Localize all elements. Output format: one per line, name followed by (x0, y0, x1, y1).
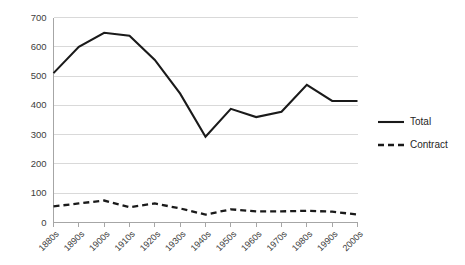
x-axis-tick-label: 1900s (87, 228, 112, 253)
series-line-contract (54, 201, 358, 215)
y-axis-tick-label: 700 (31, 12, 47, 23)
y-axis-tick-label: 0 (41, 217, 46, 228)
y-axis-tick-label: 500 (31, 70, 47, 81)
chart-screenshot: 0100200300400500600700 1880s1890s1900s19… (0, 0, 465, 265)
x-axis-tick-label: 1930s (163, 228, 188, 253)
y-axis-tick-label: 200 (31, 158, 47, 169)
legend-label-total: Total (410, 116, 431, 127)
x-axis-tick-label: 1990s (315, 228, 340, 253)
x-axis-tick-label: 1890s (62, 228, 87, 253)
x-axis-tick-label: 1980s (290, 228, 315, 253)
x-axis-tick-label: 1960s (239, 228, 264, 253)
x-axis-tick-label: 1940s (188, 228, 213, 253)
line-chart: 0100200300400500600700 1880s1890s1900s19… (0, 0, 465, 265)
y-axis-tick-label: 300 (31, 129, 47, 140)
x-axis-tick-label: 1910s (112, 228, 137, 253)
data-series (54, 33, 358, 215)
x-axis-tick-label: 1950s (214, 228, 239, 253)
chart-legend: TotalContract (378, 116, 448, 150)
y-axis-tick-label: 400 (31, 99, 47, 110)
gridlines (54, 18, 358, 194)
x-axis-tick-label: 1970s (264, 228, 289, 253)
y-axis-tick-label: 600 (31, 41, 47, 52)
x-axis-tick-labels: 1880s1890s1900s1910s1920s1930s1940s1950s… (36, 228, 365, 253)
x-axis-tick-label: 1880s (36, 228, 61, 253)
x-axis-tick-label: 1920s (138, 228, 163, 253)
x-axis-tick-label: 2000s (340, 228, 365, 253)
series-line-total (54, 33, 358, 137)
y-axis-tick-labels: 0100200300400500600700 (31, 12, 47, 228)
legend-label-contract: Contract (410, 139, 448, 150)
x-axis-tick-marks (54, 223, 358, 227)
y-axis-tick-label: 100 (31, 187, 47, 198)
axis-lines (54, 18, 358, 223)
